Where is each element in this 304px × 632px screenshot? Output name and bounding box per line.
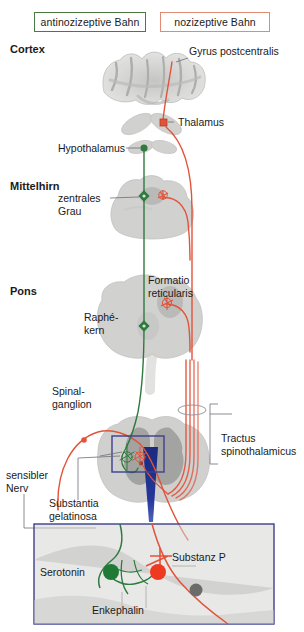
label-sensibler-nerv-line2: Nerv <box>6 482 28 494</box>
level-label-pons: Pons <box>10 285 37 297</box>
legend-antinociceptive-label: antinozizeptive Bahn <box>41 16 140 28</box>
label-spinalganglion-line2: ganglion <box>52 398 92 410</box>
spinalganglion-node <box>81 437 87 443</box>
level-label-cortex: Cortex <box>10 43 45 55</box>
legend-nociceptive-label: nozizeptive Bahn <box>174 16 256 28</box>
label-tractus-spinothalamicus-line1: Tractus <box>221 432 256 444</box>
anatomy-diagram <box>0 0 304 632</box>
cortex-structure <box>103 52 205 104</box>
label-raphe-kern-line1: Raphé- <box>84 311 118 323</box>
level-label-mittelhirn: Mittelhirn <box>10 180 60 192</box>
label-sensibler-nerv-line1: sensibler <box>6 469 48 481</box>
label-spinalganglion-line1: Spinal- <box>52 385 85 397</box>
substanz-p-marker <box>150 564 166 580</box>
label-tractus-spinothalamicus-line2: spinothalamicus <box>221 445 296 457</box>
label-gyrus-postcentralis: Gyrus postcentralis <box>189 45 279 57</box>
label-substanz-p: Substanz P <box>172 551 226 563</box>
legend-antinociceptive[interactable]: antinozizeptive Bahn <box>34 12 146 32</box>
serotonin-marker <box>103 564 119 580</box>
thalamus-node <box>160 119 167 126</box>
label-zentrales-grau-line1: zentrales <box>58 192 101 204</box>
label-formatio-reticularis-line1: Formatio <box>148 274 189 286</box>
hypothalamus-node <box>140 144 147 151</box>
label-enkephalin: Enkephalin <box>92 604 144 616</box>
label-substantia-gelatinosa-line2: gelatinosa <box>49 510 97 522</box>
label-serotonin: Serotonin <box>40 566 85 578</box>
label-hypothalamus: Hypothalamus <box>58 142 125 154</box>
label-raphe-kern-line2: kern <box>84 324 104 336</box>
label-formatio-reticularis-line2: reticularis <box>148 287 193 299</box>
label-thalamus: Thalamus <box>178 116 224 128</box>
figure-canvas: antinozizeptive Bahn nozizeptive Bahn Co… <box>0 0 304 632</box>
legend-nociceptive[interactable]: nozizeptive Bahn <box>160 12 270 32</box>
midbrain-structure <box>111 176 194 239</box>
thalamus-structure <box>118 109 185 156</box>
projection-neuron-marker <box>190 584 203 597</box>
label-substantia-gelatinosa-line1: Substantia <box>49 497 99 509</box>
label-zentrales-grau-line2: Grau <box>58 205 81 217</box>
tract-bundle-outline <box>178 405 206 415</box>
